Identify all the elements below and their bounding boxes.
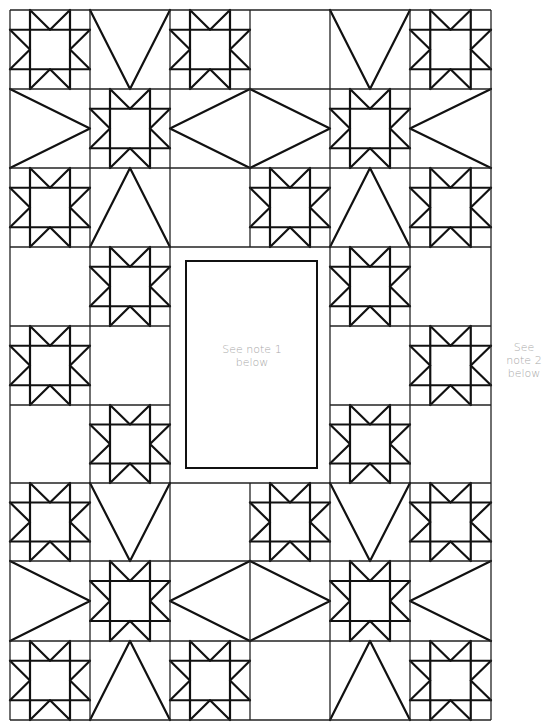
half-diamond-right — [250, 561, 330, 641]
star-point-bottom — [30, 542, 70, 562]
star-point-top — [430, 483, 471, 503]
star-point-left — [330, 267, 350, 307]
star-point-right — [390, 267, 410, 307]
star-point-bottom — [350, 464, 390, 484]
star-point-top — [30, 168, 70, 188]
star-point-bottom — [30, 69, 70, 89]
star-point-bottom — [430, 69, 471, 89]
star-point-bottom — [110, 148, 150, 168]
star-point-bottom — [30, 385, 70, 405]
sawtooth-star-block — [90, 405, 170, 483]
star-point-right — [150, 267, 170, 307]
star-point-top — [430, 10, 471, 30]
star-point-left — [10, 346, 30, 386]
sawtooth-star-block — [330, 405, 410, 483]
half-diamond-right — [250, 89, 330, 168]
star-point-top — [110, 561, 150, 581]
sawtooth-star-block — [90, 89, 170, 168]
sawtooth-star-block — [90, 561, 170, 641]
sawtooth-star-block — [410, 168, 491, 247]
star-point-right — [70, 30, 90, 70]
star-point-top — [110, 405, 150, 425]
sawtooth-star-block — [410, 483, 491, 561]
star-point-left — [170, 661, 190, 701]
star-point-top — [30, 641, 70, 661]
star-point-left — [250, 188, 270, 228]
star-point-bottom — [190, 700, 230, 720]
star-point-bottom — [190, 69, 230, 89]
star-point-right — [70, 188, 90, 228]
half-diamond-left — [170, 89, 250, 168]
sawtooth-star-block — [90, 247, 170, 326]
triangle-left — [410, 89, 491, 168]
triangle-right — [10, 89, 90, 168]
star-point-left — [330, 581, 350, 621]
sawtooth-star-block — [10, 641, 90, 720]
star-point-right — [390, 425, 410, 464]
sawtooth-star-block — [330, 247, 410, 326]
note-2-label: See note 2 below — [496, 341, 549, 380]
sawtooth-star-block — [170, 10, 250, 89]
star-point-top — [190, 641, 230, 661]
star-point-left — [10, 30, 30, 70]
sawtooth-star-block — [330, 89, 410, 168]
note-2-line-3: below — [496, 367, 549, 380]
star-point-left — [90, 109, 110, 149]
star-point-top — [350, 561, 390, 581]
star-point-left — [90, 267, 110, 307]
sawtooth-star-block — [250, 168, 330, 247]
star-point-bottom — [350, 306, 390, 326]
star-point-top — [190, 10, 230, 30]
star-point-top — [430, 326, 471, 346]
star-point-left — [410, 503, 430, 542]
star-point-top — [350, 89, 390, 109]
star-point-top — [430, 168, 471, 188]
star-point-left — [410, 661, 430, 701]
star-point-left — [90, 581, 110, 621]
star-point-right — [471, 503, 491, 542]
star-point-top — [30, 483, 70, 503]
star-point-left — [330, 425, 350, 464]
star-point-right — [150, 581, 170, 621]
star-point-right — [230, 30, 250, 70]
star-point-left — [410, 30, 430, 70]
star-point-top — [30, 10, 70, 30]
star-point-right — [310, 503, 330, 542]
note-1-line-2: below — [200, 356, 304, 369]
sawtooth-star-block — [10, 326, 90, 405]
sawtooth-star-block — [10, 483, 90, 561]
star-point-right — [390, 109, 410, 149]
star-point-bottom — [430, 542, 471, 562]
star-point-left — [170, 30, 190, 70]
star-point-bottom — [110, 621, 150, 641]
triangle-down — [330, 483, 410, 561]
star-point-left — [10, 188, 30, 228]
star-point-left — [330, 109, 350, 149]
star-point-bottom — [430, 700, 471, 720]
triangle-left — [410, 561, 491, 641]
note-2-line-2: note 2 — [496, 354, 549, 367]
triangle-down — [90, 10, 170, 89]
star-point-right — [471, 346, 491, 386]
star-point-bottom — [430, 227, 471, 247]
star-point-top — [30, 326, 70, 346]
sawtooth-star-block — [250, 483, 330, 561]
star-point-bottom — [350, 148, 390, 168]
star-point-right — [70, 346, 90, 386]
star-point-top — [110, 89, 150, 109]
star-point-left — [10, 503, 30, 542]
star-point-left — [250, 503, 270, 542]
sawtooth-star-block — [410, 326, 491, 405]
star-point-bottom — [110, 306, 150, 326]
star-point-top — [270, 168, 310, 188]
star-point-left — [90, 425, 110, 464]
star-point-bottom — [30, 227, 70, 247]
star-point-right — [70, 503, 90, 542]
note-2-line-1: See — [496, 341, 549, 354]
star-point-top — [350, 405, 390, 425]
star-point-right — [390, 581, 410, 621]
star-point-left — [410, 346, 430, 386]
triangle-down — [330, 10, 410, 89]
star-point-left — [10, 661, 30, 701]
star-point-bottom — [110, 464, 150, 484]
